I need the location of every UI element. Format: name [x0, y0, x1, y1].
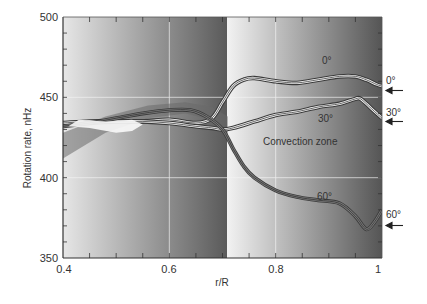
x-tick-labels: 0.4 0.6 0.8 1 — [56, 263, 381, 275]
surface-label-30deg: 30° — [386, 107, 401, 118]
x-tick-label: 1 — [375, 263, 381, 275]
surface-arrow-60deg-icon — [386, 223, 403, 229]
x-tick-label: 0.4 — [56, 263, 71, 275]
x-axis-title: r/R — [215, 277, 228, 288]
x-tick-label: 0.8 — [268, 263, 283, 275]
y-tick-labels: 500 450 400 350 — [40, 11, 58, 264]
surface-label-60deg: 60° — [386, 209, 401, 220]
y-axis-title: Rotation rate, nHz — [22, 108, 33, 189]
y-tick-label: 350 — [40, 252, 58, 264]
y-tick-label: 500 — [40, 11, 58, 23]
curve-label-60deg: 60° — [317, 191, 332, 202]
surface-arrow-30deg-icon — [386, 119, 403, 125]
surface-label-0deg: 0° — [386, 75, 396, 86]
surface-arrow-0deg-icon — [386, 88, 403, 94]
y-tick-label: 450 — [40, 91, 58, 103]
convection-zone-label: Convection zone — [263, 136, 338, 147]
rotation-rate-chart: 500 450 400 350 0.4 0.6 0.8 1 r/R Rotati… — [0, 0, 427, 304]
curve-label-30deg: 30° — [318, 113, 333, 124]
curve-label-0deg: 0° — [322, 55, 332, 66]
y-tick-label: 400 — [40, 172, 58, 184]
x-tick-label: 0.6 — [161, 263, 176, 275]
